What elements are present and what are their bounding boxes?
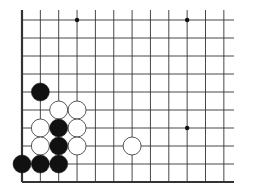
white-stone bbox=[123, 137, 141, 155]
black-stone bbox=[13, 155, 31, 173]
black-stone bbox=[31, 83, 49, 101]
star-point-icon bbox=[185, 126, 189, 130]
black-stone bbox=[50, 119, 68, 137]
black-stone bbox=[31, 155, 49, 173]
black-stone bbox=[50, 155, 68, 173]
white-stone bbox=[68, 137, 86, 155]
black-stone bbox=[50, 137, 68, 155]
white-stone bbox=[50, 101, 68, 119]
star-point-icon bbox=[75, 18, 79, 22]
go-board[interactable] bbox=[0, 0, 254, 192]
star-point-icon bbox=[185, 18, 189, 22]
white-stone bbox=[68, 101, 86, 119]
white-stone bbox=[31, 137, 49, 155]
white-stone bbox=[68, 119, 86, 137]
white-stone bbox=[31, 119, 49, 137]
